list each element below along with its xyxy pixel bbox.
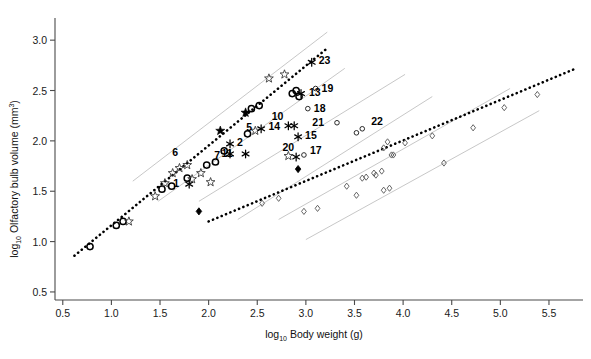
x-axis-title: log10 Body weight (g) [265, 328, 363, 342]
y-tick-label: 2.5 [32, 85, 47, 97]
x-tick-label: 5.5 [542, 307, 557, 319]
y-tick-label: 1.0 [32, 236, 47, 248]
mid-band-low [238, 97, 432, 220]
y-tick-label: 2.0 [32, 135, 47, 147]
point-label-20: 20 [282, 141, 294, 153]
y-axis-title: log10 Olfactory bulb volume (mm3) [8, 100, 22, 258]
data-point-open-diamond [471, 125, 476, 131]
data-point-asterisk-labeled [242, 150, 249, 158]
point-label-14: 14 [269, 120, 281, 132]
data-point-open-star [183, 160, 192, 168]
data-point-open-circle [120, 218, 126, 224]
x-tick-label: 1.5 [153, 307, 168, 319]
data-point-open-diamond [302, 208, 307, 214]
point-label-18: 18 [314, 102, 326, 114]
data-point-asterisk-labeled [285, 122, 292, 130]
data-point-filled-diamond [196, 208, 202, 215]
data-point-open-diamond [354, 192, 359, 198]
scatter-plot: 0.51.01.52.02.53.03.54.04.55.05.50.51.01… [0, 0, 591, 359]
x-tick-label: 3.0 [299, 307, 314, 319]
point-label-22: 22 [371, 115, 383, 127]
point-label-13: 13 [309, 86, 321, 98]
data-point-open-diamond [360, 175, 365, 181]
point-label-1: 1 [173, 177, 179, 189]
x-tick-label: 2.0 [201, 307, 216, 319]
data-point-open-diamond [276, 195, 281, 201]
x-tick-label: 4.0 [396, 307, 411, 319]
y-tick-label: 0.5 [32, 286, 47, 298]
data-point-open-circle-small [302, 153, 307, 158]
data-point-filled-diamond [295, 165, 301, 172]
lower-band-low [306, 111, 539, 240]
x-tick-label: 2.5 [250, 307, 265, 319]
data-point-asterisk-labeled [291, 122, 298, 130]
point-label-23: 23 [319, 54, 331, 66]
x-tick-label: 1.0 [104, 307, 119, 319]
data-point-open-diamond [385, 139, 390, 145]
x-tick-label: 3.5 [347, 307, 362, 319]
data-point-open-circle [113, 222, 119, 228]
point-label-7: 7 [214, 149, 220, 161]
y-tick-label: 1.5 [32, 185, 47, 197]
data-point-open-circle-small [306, 106, 311, 111]
point-label-21: 21 [312, 116, 324, 128]
point-label-5: 5 [246, 121, 252, 133]
point-label-15: 15 [305, 129, 317, 141]
point-label-6: 6 [172, 146, 178, 158]
data-point-asterisk-labeled [295, 133, 302, 141]
data-point-open-diamond [315, 205, 320, 211]
data-point-open-diamond [502, 105, 507, 111]
data-point-open-star [175, 163, 184, 171]
data-point-open-diamond [535, 91, 540, 97]
point-label-19: 19 [322, 82, 334, 94]
data-point-open-star [196, 169, 205, 177]
data-point-open-star [206, 178, 215, 186]
data-point-open-star [280, 70, 289, 78]
data-point-open-diamond [381, 187, 386, 193]
x-tick-label: 4.5 [444, 307, 459, 319]
x-tick-label: 0.5 [55, 307, 70, 319]
data-point-open-diamond [387, 185, 392, 191]
point-label-2: 2 [237, 136, 243, 148]
data-point-open-diamond [379, 168, 384, 174]
data-point-open-circle-small [335, 120, 340, 125]
data-point-open-diamond [364, 174, 369, 180]
data-point-open-circle-small [354, 131, 359, 136]
point-label-17: 17 [310, 144, 322, 156]
figure-root: 0.51.01.52.02.53.03.54.04.55.05.50.51.01… [0, 0, 591, 359]
point-label-11: 11 [221, 147, 232, 159]
data-point-open-diamond [344, 183, 349, 189]
data-point-open-circle [248, 106, 254, 112]
x-tick-label: 5.0 [493, 307, 508, 319]
data-point-open-star [265, 74, 274, 82]
data-point-open-circle-small [360, 126, 365, 131]
lower-regression [209, 68, 577, 221]
y-tick-label: 3.0 [32, 34, 47, 46]
